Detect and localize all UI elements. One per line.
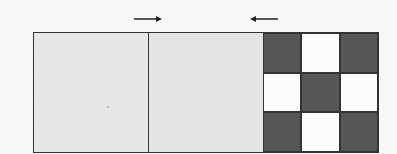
checker-cell-dark bbox=[340, 33, 378, 73]
plain-gray-panel bbox=[149, 33, 263, 152]
checker-cell-light bbox=[301, 112, 339, 152]
three-panel-diagram bbox=[33, 32, 379, 153]
arrow-right-icon bbox=[133, 14, 163, 24]
checker-cell-dark bbox=[263, 33, 301, 73]
checkerboard-panel bbox=[263, 33, 378, 152]
checker-cell-light bbox=[340, 73, 378, 113]
arrow-left-icon bbox=[249, 14, 279, 24]
checker-cell-dark bbox=[263, 112, 301, 152]
checker-cell-light bbox=[301, 33, 339, 73]
checker-cell-light bbox=[263, 73, 301, 113]
center-dot bbox=[107, 106, 109, 108]
checker-cell-dark bbox=[301, 73, 339, 113]
hatched-gray-panel bbox=[34, 33, 149, 152]
checker-cell-dark bbox=[340, 112, 378, 152]
